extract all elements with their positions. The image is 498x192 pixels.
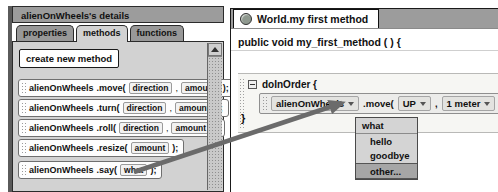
tile-method-name: .resize( — [97, 143, 128, 153]
tab-methods[interactable]: methods — [76, 25, 128, 42]
tile-method-name: .roll( — [97, 123, 117, 133]
tile-object-name: alienOnWheels — [29, 123, 94, 133]
tile-method-name: .move( — [97, 83, 126, 93]
menu-item-hello[interactable]: hello — [356, 134, 417, 148]
tile-close-paren: ); — [172, 143, 178, 153]
tile-comma: , — [175, 83, 178, 93]
amount-dropdown[interactable]: 1 meter — [442, 96, 496, 111]
method-status-icon — [240, 13, 252, 25]
tile-comma: , — [166, 123, 169, 133]
direction-dropdown[interactable]: UP — [398, 96, 431, 111]
tile-object-name: alienOnWheels — [29, 83, 94, 93]
scroll-up-icon — [211, 47, 219, 52]
tile-param: direction — [119, 122, 163, 134]
editor-separator — [231, 50, 498, 51]
tile-comma: , — [169, 103, 172, 113]
editor-tab-world-my-first-method[interactable]: World.my first method — [233, 9, 379, 28]
chevron-down-icon — [484, 102, 490, 106]
details-panel: alienOnWheels's details properties metho… — [12, 6, 224, 192]
chevron-down-icon — [348, 102, 354, 106]
methods-list: create new method alienOnWheels .move( d… — [12, 41, 224, 192]
what-parameter-menu: what hello goodbye other... — [355, 117, 418, 180]
tile-param: direction — [129, 82, 173, 94]
method-tile-resize[interactable]: alienOnWheels .resize( amount ); — [18, 139, 184, 157]
tile-object-name: alienOnWheels — [29, 143, 94, 153]
tile-param: direction — [123, 102, 167, 114]
tile-param: what — [120, 164, 147, 176]
tile-close-paren: ); — [150, 165, 156, 175]
method-tile-say[interactable]: alienOnWheels .say( what ); — [18, 161, 162, 179]
method-tile-turn[interactable]: alienOnWheels .turn( direction , amount … — [18, 99, 229, 117]
do-in-order-header: doInOrder { — [248, 79, 317, 90]
tile-method-name: .turn( — [97, 103, 120, 113]
tile-object-name: alienOnWheels — [29, 165, 94, 175]
tab-properties[interactable]: properties — [16, 25, 74, 41]
move-statement-tile[interactable]: alienOnWheels .move( UP , 1 meter ); mor… — [259, 93, 498, 114]
tab-functions[interactable]: functions — [130, 25, 185, 41]
direction-value: UP — [403, 98, 416, 109]
details-tabs: properties methods functions — [12, 23, 224, 41]
tile-method-name: .say( — [97, 165, 118, 175]
method-tile-roll[interactable]: alienOnWheels .roll( direction , amount … — [18, 119, 225, 137]
tile-param: amount — [131, 142, 170, 154]
tile-object-name: alienOnWheels — [29, 103, 94, 113]
do-in-order-label: doInOrder { — [262, 79, 317, 90]
object-dropdown[interactable]: alienOnWheels — [271, 96, 359, 111]
statement-method-name: .move( — [363, 98, 394, 109]
create-new-method-button[interactable]: create new method — [19, 49, 119, 68]
tile-param: amount — [171, 122, 210, 134]
menu-item-goodbye[interactable]: goodbye — [356, 148, 417, 162]
details-panel-title: alienOnWheels's details — [12, 6, 224, 23]
statement-comma: , — [435, 98, 438, 109]
do-in-order-closing-brace: } — [241, 112, 245, 124]
method-tile-move[interactable]: alienOnWheels .move( direction , amount … — [18, 79, 235, 97]
scroll-up-button[interactable] — [208, 43, 222, 56]
menu-title: what — [356, 118, 417, 133]
chevron-down-icon — [420, 102, 426, 106]
statement-object-name: alienOnWheels — [276, 98, 344, 109]
editor-tabbar: World.my first method — [231, 9, 498, 29]
collapse-minus-icon[interactable] — [248, 80, 257, 89]
amount-value: 1 meter — [447, 98, 481, 109]
menu-item-other[interactable]: other... — [356, 163, 417, 179]
methods-scrollbar[interactable] — [207, 43, 222, 190]
scrollbar-thumb[interactable] — [208, 56, 222, 190]
tile-close-paren: ); — [223, 83, 229, 93]
editor-tab-label: World.my first method — [257, 13, 368, 25]
method-signature: public void my_first_method ( ) { — [231, 29, 498, 48]
alice-ide-screenshot: { "colors": { "panel_gray": "#9c9c9c", "… — [0, 0, 498, 192]
